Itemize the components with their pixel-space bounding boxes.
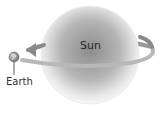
sun-label: Sun xyxy=(80,39,101,52)
earth-globe-icon xyxy=(9,52,19,62)
orbit-diagram-graphic xyxy=(0,0,160,114)
orbit-diagram: Sun Earth xyxy=(0,0,160,114)
earth-label: Earth xyxy=(6,76,33,87)
sun-sphere xyxy=(41,6,139,104)
